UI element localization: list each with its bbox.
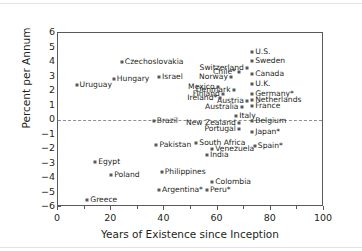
data-point-marker (235, 114, 238, 117)
y-tick-label: 6 (33, 27, 55, 37)
data-point-marker (211, 148, 214, 151)
data-point-label: Spain* (258, 142, 283, 150)
data-point-marker (251, 59, 254, 62)
x-minor-tick-mark (84, 206, 85, 209)
data-point-marker (251, 82, 254, 85)
data-point-marker (75, 84, 78, 87)
y-tick-label: −6 (33, 201, 55, 211)
data-point-marker (232, 88, 235, 91)
data-point-label: Sweden (255, 57, 285, 65)
data-point-marker (251, 92, 254, 95)
data-point-marker (86, 198, 89, 201)
x-axis: 020406080100 (57, 206, 323, 230)
x-tick-mark (57, 206, 58, 210)
scan-rule-bottom (0, 247, 362, 248)
x-tick-label: 40 (157, 212, 169, 223)
x-tick-label: 60 (211, 212, 223, 223)
data-point-label: Egypt (98, 158, 120, 166)
x-minor-tick-mark (137, 206, 138, 209)
data-point-label: Greece (90, 196, 117, 204)
data-point-label: Portugal (204, 125, 235, 133)
x-tick-label: 100 (314, 212, 332, 223)
data-point-label: Argentina* (162, 186, 203, 194)
y-tick-label: 1 (33, 100, 55, 110)
data-point-marker (195, 142, 198, 145)
data-point-marker (110, 174, 113, 177)
data-point-marker (237, 127, 240, 130)
data-point-label: Belgium (255, 117, 286, 125)
data-point-marker (158, 75, 161, 78)
x-tick-mark (323, 206, 324, 210)
data-point-label: Hungary (117, 75, 149, 83)
y-tick-label: −2 (33, 143, 55, 153)
data-point-marker (251, 120, 254, 123)
x-minor-tick-mark (190, 206, 191, 209)
data-point-label: Philippines (165, 168, 206, 176)
data-point-marker (240, 105, 243, 108)
data-point-marker (245, 66, 248, 69)
y-axis-title: Percent per Annum (20, 11, 32, 145)
data-point-marker (205, 153, 208, 156)
data-point-marker (112, 78, 115, 81)
data-point-marker (120, 61, 123, 64)
data-point-label: U.S. (255, 48, 270, 56)
data-point-label: Peru* (210, 186, 231, 194)
data-point-marker (152, 120, 155, 123)
data-point-marker (94, 161, 97, 164)
x-tick-mark (110, 206, 111, 210)
data-point-marker (253, 145, 256, 148)
y-tick-label: 5 (33, 42, 55, 52)
y-tick-label: −5 (33, 187, 55, 197)
data-point-label: Canada (255, 70, 284, 78)
data-point-marker (155, 143, 158, 146)
data-point-marker (158, 188, 161, 191)
data-point-label: U.K. (255, 80, 270, 88)
x-tick-label: 20 (104, 212, 116, 223)
data-point-marker (251, 130, 254, 133)
data-point-marker (251, 72, 254, 75)
data-point-marker (251, 98, 254, 101)
data-point-label: Pakistan (159, 141, 191, 149)
data-point-label: Venezuela (215, 145, 254, 153)
data-point-marker (211, 181, 214, 184)
y-tick-label: 2 (33, 85, 55, 95)
x-tick-label: 80 (264, 212, 276, 223)
data-point-marker (251, 104, 254, 107)
y-tick-label: 0 (33, 114, 55, 124)
y-tick-label: 3 (33, 71, 55, 81)
data-point-label: Brazil (157, 117, 178, 125)
data-point-label: Japan* (255, 128, 280, 136)
data-point-label: Mexico (188, 83, 215, 91)
scatter-plot-figure: 6543210−1−2−3−4−5−6 Percent per Annum Ur… (0, 0, 362, 251)
data-point-label: Uruguay (80, 81, 112, 89)
y-tick-label: −3 (33, 158, 55, 168)
data-point-marker (237, 121, 240, 124)
data-point-label: Germany* (255, 90, 294, 98)
data-point-marker (245, 100, 248, 103)
data-point-marker (205, 188, 208, 191)
y-tick-label: −4 (33, 172, 55, 182)
data-point-marker (160, 171, 163, 174)
x-tick-mark (270, 206, 271, 210)
x-axis-title: Years of Existence since Inception (57, 228, 323, 240)
data-point-label: Israel (162, 73, 183, 81)
x-minor-tick-mark (296, 206, 297, 209)
data-point-label: Czechoslovakia (125, 58, 184, 66)
scan-rule-top (0, 3, 362, 4)
data-point-marker (216, 85, 219, 88)
x-tick-mark (217, 206, 218, 210)
data-point-label: Italy (239, 112, 255, 120)
x-minor-tick-mark (243, 206, 244, 209)
x-tick-mark (163, 206, 164, 210)
x-tick-label: 0 (54, 212, 60, 223)
y-tick-label: 4 (33, 56, 55, 66)
data-point-label: Switzerland (200, 64, 244, 72)
y-tick-label: −1 (33, 129, 55, 139)
y-axis: 6543210−1−2−3−4−5−6 (29, 32, 55, 206)
data-point-marker (251, 50, 254, 53)
data-point-label: Poland (114, 171, 139, 179)
plot-area: UruguayHungaryCzechoslovakiaIsraelBrazil… (57, 32, 323, 206)
